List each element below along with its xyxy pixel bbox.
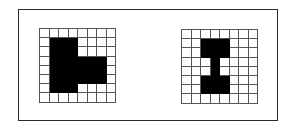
empty-cell	[97, 29, 107, 38]
empty-cell	[201, 30, 211, 39]
empty-cell	[239, 94, 249, 103]
empty-cell	[239, 58, 249, 67]
filled-cell	[211, 48, 221, 57]
filled-cell	[97, 66, 107, 75]
filled-cell	[97, 75, 107, 84]
empty-cell	[182, 76, 192, 85]
empty-cell	[249, 76, 259, 85]
filled-cell	[50, 38, 60, 47]
filled-cell	[211, 67, 221, 76]
empty-cell	[40, 66, 50, 75]
empty-cell	[182, 67, 192, 76]
empty-cell	[201, 67, 211, 76]
empty-cell	[40, 57, 50, 66]
empty-cell	[69, 29, 79, 38]
empty-cell	[249, 94, 259, 103]
filled-cell	[69, 57, 79, 66]
empty-cell	[192, 85, 202, 94]
empty-cell	[230, 30, 240, 39]
filled-cell	[211, 85, 221, 94]
empty-cell	[249, 48, 259, 57]
filled-cell	[59, 66, 69, 75]
empty-cell	[88, 29, 98, 38]
empty-cell	[50, 29, 60, 38]
empty-cell	[201, 94, 211, 103]
filled-cell	[220, 48, 230, 57]
filled-cell	[59, 84, 69, 93]
empty-cell	[230, 39, 240, 48]
filled-cell	[220, 39, 230, 48]
filled-cell	[97, 57, 107, 66]
empty-cell	[182, 94, 192, 103]
empty-cell	[88, 47, 98, 56]
empty-cell	[239, 39, 249, 48]
empty-cell	[40, 93, 50, 102]
empty-cell	[40, 75, 50, 84]
empty-cell	[182, 30, 192, 39]
empty-cell	[192, 67, 202, 76]
empty-cell	[78, 38, 88, 47]
empty-cell	[239, 48, 249, 57]
empty-cell	[88, 38, 98, 47]
empty-cell	[211, 30, 221, 39]
empty-cell	[107, 84, 117, 93]
filled-cell	[69, 84, 79, 93]
filled-cell	[88, 66, 98, 75]
filled-cell	[50, 57, 60, 66]
empty-cell	[40, 84, 50, 93]
filled-cell	[59, 47, 69, 56]
filled-cell	[211, 58, 221, 67]
filled-cell	[50, 47, 60, 56]
empty-cell	[220, 94, 230, 103]
empty-cell	[69, 93, 79, 102]
empty-cell	[220, 58, 230, 67]
filled-cell	[69, 75, 79, 84]
filled-cell	[201, 76, 211, 85]
empty-cell	[107, 66, 117, 75]
empty-cell	[40, 47, 50, 56]
empty-cell	[97, 93, 107, 102]
filled-cell	[50, 84, 60, 93]
filled-cell	[220, 85, 230, 94]
filled-cell	[59, 57, 69, 66]
empty-cell	[182, 39, 192, 48]
empty-cell	[107, 38, 117, 47]
filled-cell	[88, 75, 98, 84]
filled-cell	[50, 75, 60, 84]
empty-cell	[230, 58, 240, 67]
empty-cell	[78, 47, 88, 56]
empty-cell	[220, 30, 230, 39]
empty-cell	[40, 29, 50, 38]
left-pixel-grid	[39, 28, 116, 103]
empty-cell	[88, 84, 98, 93]
filled-cell	[59, 38, 69, 47]
right-pixel-grid	[181, 29, 258, 104]
empty-cell	[239, 30, 249, 39]
empty-cell	[211, 94, 221, 103]
empty-cell	[107, 47, 117, 56]
empty-cell	[249, 85, 259, 94]
empty-cell	[78, 93, 88, 102]
filled-cell	[69, 47, 79, 56]
filled-cell	[211, 76, 221, 85]
filled-cell	[88, 57, 98, 66]
empty-cell	[59, 29, 69, 38]
empty-cell	[59, 93, 69, 102]
empty-cell	[97, 84, 107, 93]
empty-cell	[230, 94, 240, 103]
filled-cell	[78, 66, 88, 75]
empty-cell	[97, 47, 107, 56]
filled-cell	[220, 76, 230, 85]
empty-cell	[249, 58, 259, 67]
empty-cell	[192, 94, 202, 103]
empty-cell	[40, 38, 50, 47]
empty-cell	[192, 48, 202, 57]
empty-cell	[182, 85, 192, 94]
empty-cell	[249, 39, 259, 48]
filled-cell	[50, 66, 60, 75]
filled-cell	[69, 38, 79, 47]
filled-cell	[59, 75, 69, 84]
empty-cell	[230, 85, 240, 94]
empty-cell	[239, 85, 249, 94]
empty-cell	[182, 48, 192, 57]
